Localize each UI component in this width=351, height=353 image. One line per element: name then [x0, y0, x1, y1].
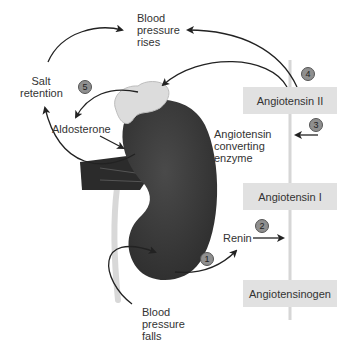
arrow-salt-to-bp-rises	[48, 28, 122, 62]
box-angiotensin-ii: Angiotensin II	[243, 87, 337, 114]
box-angiotensinogen: Angiotensinogen	[243, 280, 337, 307]
step-badge-5: 5	[78, 80, 92, 94]
raas-diagram: Blood pressure rises Salt retention Aldo…	[0, 0, 351, 353]
label-bp-rises: Blood pressure rises	[137, 12, 180, 48]
box-angiotensin-i: Angiotensin I	[243, 183, 337, 210]
arrow-aldosterone-to-kidney	[100, 136, 123, 148]
step-badge-4: 4	[301, 67, 315, 81]
label-bp-falls: Blood pressure falls	[142, 306, 185, 342]
ureter	[114, 188, 118, 300]
step-badge-1: 1	[200, 252, 214, 266]
step-badge-3: 3	[309, 118, 323, 132]
label-aldosterone: Aldosterone	[52, 123, 111, 135]
label-salt-retention: Salt retention	[20, 75, 62, 99]
step-badge-2: 2	[255, 219, 269, 233]
arrow-angiotensin-ii-to-adrenal	[163, 62, 287, 87]
label-ace: Angiotensin converting enzyme	[214, 128, 272, 164]
label-renin: Renin	[223, 232, 252, 244]
